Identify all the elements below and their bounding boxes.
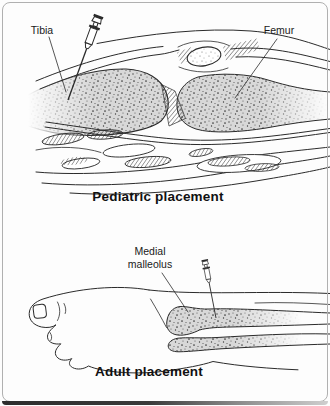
patellar-tendon-hatch (223, 39, 260, 62)
bottom-shadow (2, 401, 328, 405)
adult-caption: Adult placement (0, 364, 298, 379)
toe-crease (64, 304, 66, 314)
pediatric-caption: Pediatric placement (0, 189, 316, 204)
fibula-bone (160, 332, 330, 357)
femur-label: Femur (259, 24, 299, 37)
tibia-label: Tibia (24, 24, 60, 37)
tendon-line (179, 67, 228, 72)
foot-outline (29, 287, 298, 372)
skin-line (255, 303, 330, 305)
ankle-crease (151, 299, 167, 328)
toe-crease (58, 302, 60, 321)
adult-panel (29, 259, 330, 373)
skin-line (236, 57, 330, 70)
femur-bone (170, 68, 330, 138)
malleolus-label: Medial malleolus (119, 245, 181, 271)
figure-frame: Tibia Femur Pediatric placement Medial m… (0, 0, 330, 406)
leg-outline (149, 290, 330, 294)
tendon-line (178, 41, 229, 47)
pediatric-panel (20, 14, 330, 195)
toe-crease (50, 333, 52, 341)
muscle-line (36, 147, 101, 152)
toenail (33, 304, 47, 319)
